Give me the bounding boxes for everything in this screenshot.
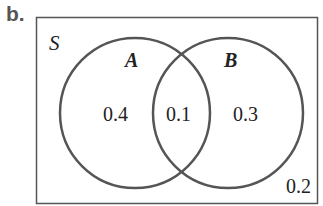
region-b-only-value: 0.3 xyxy=(233,103,258,125)
region-neither-value: 0.2 xyxy=(286,175,311,197)
universe-label: S xyxy=(49,31,60,55)
set-b-label: B xyxy=(223,49,237,71)
set-a-label: A xyxy=(123,49,138,71)
venn-diagram: S A B 0.4 0.1 0.3 0.2 xyxy=(0,0,323,206)
region-a-only-value: 0.4 xyxy=(103,103,128,125)
region-a-and-b-value: 0.1 xyxy=(166,103,191,125)
